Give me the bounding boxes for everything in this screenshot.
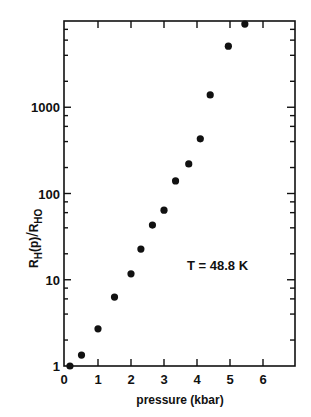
data-point — [197, 135, 204, 142]
data-point — [149, 222, 156, 229]
data-point — [78, 351, 85, 358]
data-point — [241, 21, 248, 28]
data-point — [207, 91, 214, 98]
x-tick-label: 0 — [60, 372, 67, 387]
x-tick-label: 5 — [226, 372, 233, 387]
data-points — [66, 21, 248, 370]
y-tick-label: 1000 — [31, 100, 60, 115]
x-tick-label: 1 — [94, 372, 101, 387]
y-axis-title: RH(p)/RHO — [24, 208, 44, 268]
data-point — [137, 245, 144, 252]
y-tick-label: 1 — [53, 359, 60, 374]
x-tick-label: 4 — [193, 372, 201, 387]
temperature-annotation: T = 48.8 K — [187, 258, 249, 273]
data-point — [66, 362, 73, 369]
axis-ticks — [64, 21, 295, 366]
x-tick-label: 2 — [127, 372, 134, 387]
plot-frame — [64, 21, 295, 366]
data-point — [127, 270, 134, 277]
data-point — [225, 43, 232, 50]
x-tick-labels: 0123456 — [60, 372, 266, 387]
y-tick-label: 100 — [38, 187, 60, 202]
data-point — [111, 293, 118, 300]
data-point — [185, 160, 192, 167]
chart: 0123456 1101001000 pressure (kbar) RH(p)… — [0, 0, 311, 417]
x-tick-label: 6 — [259, 372, 266, 387]
svg-text:RH(p)/RHO: RH(p)/RHO — [24, 208, 44, 268]
data-point — [94, 325, 101, 332]
data-point — [160, 207, 167, 214]
x-axis-title: pressure (kbar) — [136, 393, 223, 407]
x-tick-label: 3 — [160, 372, 167, 387]
data-point — [172, 177, 179, 184]
y-tick-label: 10 — [46, 273, 60, 288]
